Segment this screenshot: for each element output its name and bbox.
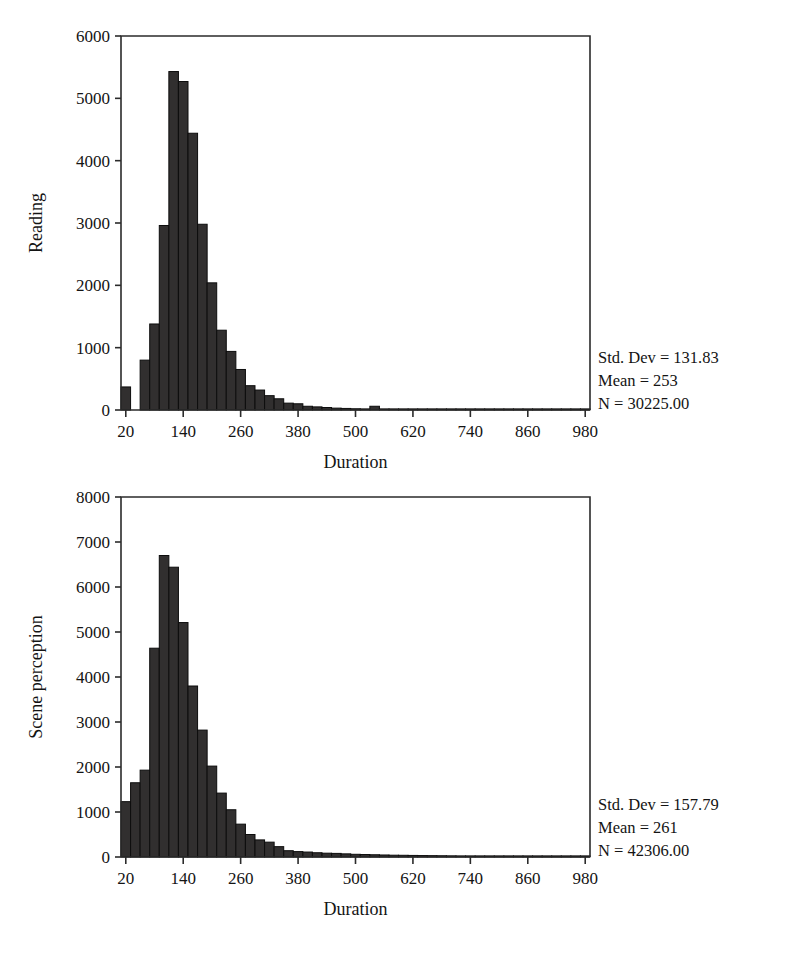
x-tick-label: 980 xyxy=(572,422,598,441)
histogram-bar xyxy=(226,810,236,857)
histogram-bar xyxy=(131,783,141,857)
histogram-bar xyxy=(188,686,198,857)
x-tick-label: 620 xyxy=(400,422,426,441)
histogram-bar xyxy=(236,369,246,410)
y-tick-label: 2000 xyxy=(76,758,110,777)
y-tick-label: 3000 xyxy=(76,713,110,732)
y-tick-label: 1000 xyxy=(76,803,110,822)
x-tick-label: 740 xyxy=(458,422,484,441)
x-tick-label: 860 xyxy=(515,422,541,441)
reading-mean-label: Mean = 253 xyxy=(598,371,678,390)
histogram-bar xyxy=(198,730,208,857)
histogram-bar xyxy=(284,851,294,857)
y-tick-label: 4000 xyxy=(76,152,110,171)
scene-mean-label: Mean = 261 xyxy=(598,818,678,837)
histogram-bar xyxy=(217,330,227,410)
histogram-bar xyxy=(226,351,236,410)
histogram-bar xyxy=(207,283,217,410)
histogram-bar xyxy=(284,403,294,410)
histogram-bar xyxy=(140,770,150,857)
x-tick-label: 140 xyxy=(170,422,196,441)
histogram-bar xyxy=(159,556,169,858)
x-tick-label: 860 xyxy=(515,869,541,888)
x-tick-label: 740 xyxy=(458,869,484,888)
histogram-bar xyxy=(150,324,160,410)
reading-y-ticks: 0100020003000400050006000 xyxy=(76,27,121,420)
scene-bars xyxy=(121,556,590,858)
scene-stats-block: Std. Dev = 157.79 Mean = 261 N = 42306.0… xyxy=(598,795,719,860)
y-tick-label: 0 xyxy=(102,848,111,867)
x-tick-label: 260 xyxy=(228,869,254,888)
histogram-bar xyxy=(293,852,303,857)
y-tick-label: 3000 xyxy=(76,214,110,233)
x-tick-label: 20 xyxy=(117,422,134,441)
histogram-bar xyxy=(293,404,303,410)
histogram-bar xyxy=(178,82,188,411)
histogram-bar xyxy=(255,840,265,857)
reading-y-axis-title: Reading xyxy=(26,193,46,253)
histogram-bar xyxy=(198,224,208,410)
y-tick-label: 7000 xyxy=(76,533,110,552)
histogram-bar xyxy=(245,835,255,858)
y-tick-label: 2000 xyxy=(76,276,110,295)
y-tick-label: 6000 xyxy=(76,578,110,597)
x-tick-label: 500 xyxy=(343,869,369,888)
histogram-bar xyxy=(121,387,131,410)
y-tick-label: 8000 xyxy=(76,488,110,507)
y-tick-label: 5000 xyxy=(76,89,110,108)
scene-y-axis-title: Scene perception xyxy=(26,615,46,738)
histogram-bar xyxy=(265,842,275,857)
x-tick-label: 140 xyxy=(170,869,196,888)
scene-std-dev-label: Std. Dev = 157.79 xyxy=(598,795,719,814)
histogram-bar xyxy=(169,567,179,857)
reading-histogram-figure: 0100020003000400050006000 20140260380500… xyxy=(0,0,799,484)
histogram-bar xyxy=(274,847,284,857)
histogram-bar xyxy=(274,399,284,410)
histogram-bar xyxy=(265,396,275,410)
scene-chart-canvas: 010002000300040005000600070008000 201402… xyxy=(0,484,799,968)
y-tick-label: 4000 xyxy=(76,668,110,687)
reading-bars xyxy=(121,72,590,410)
histogram-bar xyxy=(236,824,246,857)
histogram-bar xyxy=(188,133,198,410)
y-tick-label: 6000 xyxy=(76,27,110,46)
scene-perception-histogram-figure: 010002000300040005000600070008000 201402… xyxy=(0,484,799,968)
reading-stats-block: Std. Dev = 131.83 Mean = 253 N = 30225.0… xyxy=(598,348,719,413)
x-tick-label: 20 xyxy=(117,869,134,888)
scene-y-ticks: 010002000300040005000600070008000 xyxy=(76,488,121,867)
x-tick-label: 980 xyxy=(572,869,598,888)
histogram-bar xyxy=(217,793,227,857)
y-tick-label: 1000 xyxy=(76,339,110,358)
y-tick-label: 5000 xyxy=(76,623,110,642)
histogram-bar xyxy=(178,623,188,857)
reading-std-dev-label: Std. Dev = 131.83 xyxy=(598,348,719,367)
histogram-bar xyxy=(140,360,150,410)
histogram-bar xyxy=(169,72,179,410)
reading-n-label: N = 30225.00 xyxy=(598,394,689,413)
scene-x-axis-title: Duration xyxy=(324,899,388,919)
x-tick-label: 620 xyxy=(400,869,426,888)
scene-n-label: N = 42306.00 xyxy=(598,841,689,860)
y-tick-label: 0 xyxy=(102,401,111,420)
histogram-bar xyxy=(255,390,265,410)
histogram-bar xyxy=(245,386,255,410)
x-tick-label: 500 xyxy=(343,422,369,441)
reading-chart-canvas: 0100020003000400050006000 20140260380500… xyxy=(0,0,799,484)
scene-x-ticks: 20140260380500620740860980 xyxy=(117,857,598,888)
histogram-bar xyxy=(207,766,217,857)
x-tick-label: 380 xyxy=(285,869,311,888)
histogram-bar xyxy=(121,802,131,857)
histogram-bar xyxy=(150,648,160,857)
histogram-bar xyxy=(159,225,169,410)
x-tick-label: 380 xyxy=(285,422,311,441)
x-tick-label: 260 xyxy=(228,422,254,441)
reading-x-ticks: 20140260380500620740860980 xyxy=(117,410,598,441)
reading-x-axis-title: Duration xyxy=(324,452,388,472)
